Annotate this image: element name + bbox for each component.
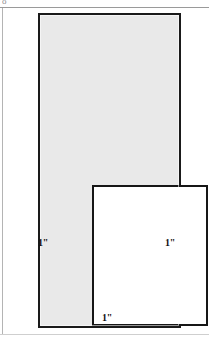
scan-corner-glyph: o	[2, 0, 12, 6]
page-rule-left	[2, 8, 3, 335]
dimension-label-left-margin: 1"	[38, 238, 48, 248]
dimension-label-right-margin: 1"	[165, 238, 175, 248]
text-block-rectangle	[92, 185, 208, 326]
figure-canvas: o 1" 1" 1"	[0, 0, 209, 338]
page-outline-rectangle	[38, 13, 181, 328]
page-rule-top	[0, 7, 209, 8]
page-rule-bottom	[0, 334, 209, 335]
dimension-label-bottom-margin: 1"	[102, 313, 112, 323]
